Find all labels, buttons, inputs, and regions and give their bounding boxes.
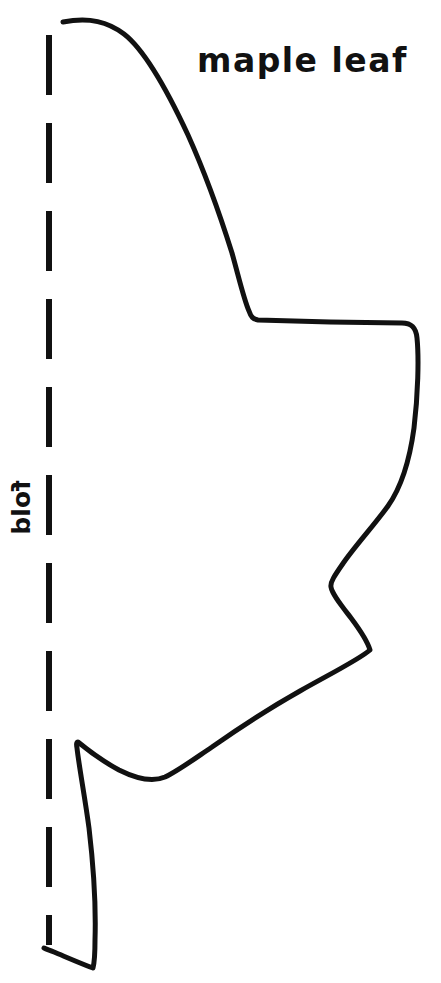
- maple-leaf-template-drawing: [0, 0, 441, 983]
- page-title: maple leaf: [197, 44, 408, 77]
- fold-label: fold: [9, 478, 34, 538]
- template-page: maple leaf fold: [0, 0, 441, 983]
- page-background: [0, 0, 441, 983]
